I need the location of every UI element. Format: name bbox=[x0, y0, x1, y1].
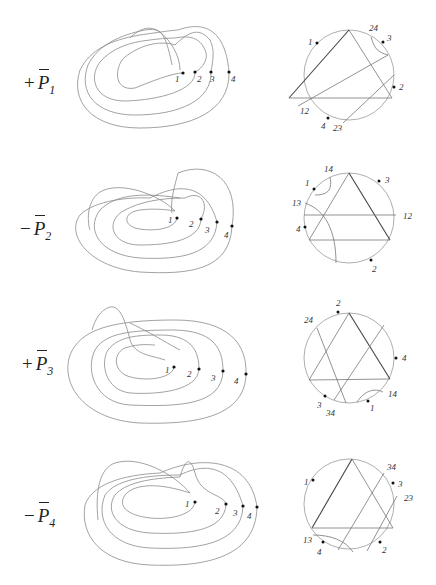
svg-text:1: 1 bbox=[304, 477, 309, 487]
svg-text:1: 1 bbox=[175, 74, 180, 84]
svg-text:3: 3 bbox=[316, 400, 322, 410]
svg-text:2: 2 bbox=[382, 545, 387, 555]
row-p3: +P3 2 24 4 14 3 34 1 1 2 3 4 bbox=[0, 285, 436, 435]
svg-text:14: 14 bbox=[324, 164, 334, 174]
svg-text:3: 3 bbox=[386, 33, 392, 43]
svg-text:3: 3 bbox=[210, 373, 216, 383]
svg-text:2: 2 bbox=[189, 219, 194, 229]
svg-text:12: 12 bbox=[403, 211, 413, 221]
chord-diagram: 1 34 3 23 13 4 2 bbox=[260, 435, 436, 585]
curve-points: 1 2 3 4 bbox=[0, 285, 260, 435]
chord-diagram: 14 1 3 13 12 4 2 bbox=[260, 140, 436, 285]
svg-text:1: 1 bbox=[185, 499, 190, 509]
svg-text:4: 4 bbox=[247, 511, 252, 521]
svg-text:3: 3 bbox=[397, 479, 403, 489]
svg-text:4: 4 bbox=[321, 121, 326, 131]
curve-points: 1 2 3 4 bbox=[0, 140, 260, 285]
svg-text:1: 1 bbox=[308, 37, 313, 47]
svg-text:24: 24 bbox=[369, 23, 379, 33]
svg-text:1: 1 bbox=[370, 403, 375, 413]
svg-text:3: 3 bbox=[209, 74, 215, 84]
svg-text:24: 24 bbox=[304, 315, 314, 325]
svg-text:4: 4 bbox=[402, 353, 407, 363]
chord-diagram: 2 24 4 14 3 34 1 bbox=[260, 285, 436, 435]
svg-text:1: 1 bbox=[165, 365, 170, 375]
svg-text:13: 13 bbox=[303, 535, 313, 545]
svg-text:23: 23 bbox=[333, 123, 343, 133]
svg-text:2: 2 bbox=[336, 298, 341, 308]
svg-text:4: 4 bbox=[296, 224, 301, 234]
chord-diagram: 1 24 3 2 12 4 23 bbox=[260, 0, 436, 145]
svg-text:14: 14 bbox=[388, 389, 398, 399]
svg-text:2: 2 bbox=[399, 82, 404, 92]
svg-text:3: 3 bbox=[232, 508, 238, 518]
row-p2: −P2 14 1 3 13 12 4 2 1 2 3 4 bbox=[0, 140, 436, 285]
svg-text:1: 1 bbox=[168, 215, 173, 225]
svg-text:2: 2 bbox=[187, 369, 192, 379]
svg-text:1: 1 bbox=[305, 178, 310, 188]
svg-text:3: 3 bbox=[384, 175, 390, 185]
svg-text:34: 34 bbox=[386, 462, 397, 472]
svg-text:2: 2 bbox=[197, 74, 202, 84]
row-p1: +P1 1 24 3 2 12 4 23 1 2 3 4 bbox=[0, 0, 436, 145]
svg-text:13: 13 bbox=[292, 198, 302, 208]
svg-text:23: 23 bbox=[404, 493, 414, 503]
row-p4: −P4 1 34 3 23 13 4 2 1 2 3 4 bbox=[0, 435, 436, 585]
svg-text:4: 4 bbox=[317, 547, 322, 557]
svg-text:4: 4 bbox=[231, 74, 236, 84]
svg-text:4: 4 bbox=[234, 376, 239, 386]
svg-text:34: 34 bbox=[325, 408, 336, 418]
svg-text:3: 3 bbox=[204, 225, 210, 235]
svg-text:4: 4 bbox=[224, 230, 229, 240]
curve-points: 1 2 3 4 bbox=[0, 435, 260, 585]
svg-text:2: 2 bbox=[372, 264, 377, 274]
svg-text:2: 2 bbox=[215, 506, 220, 516]
svg-text:12: 12 bbox=[300, 106, 310, 116]
curve-points: 1 2 3 4 bbox=[0, 0, 260, 145]
